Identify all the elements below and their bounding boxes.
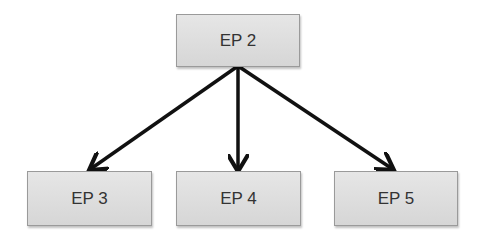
node-ep3: EP 3 [27,171,152,226]
node-label: EP 5 [378,189,415,209]
node-label: EP 3 [71,189,108,209]
arrow-ep2-ep5 [238,66,391,168]
node-ep5: EP 5 [334,171,458,226]
node-label: EP 4 [220,189,257,209]
node-ep4: EP 4 [176,171,301,226]
arrow-ep2-ep3 [92,66,238,168]
node-label: EP 2 [220,31,257,51]
node-ep2: EP 2 [176,14,300,67]
